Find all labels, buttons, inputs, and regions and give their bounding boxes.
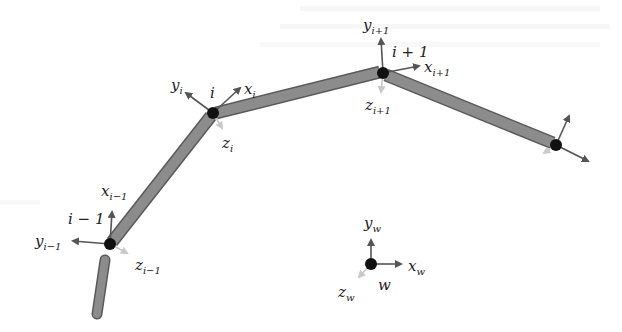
joint-i-dot [207,107,219,119]
label-x-i+1: xi+1 [424,58,450,78]
joint-i-1-dot [104,238,116,250]
label-w: w [378,276,391,294]
joint-i+1-dot [377,67,389,79]
label-joint-i+1: i + 1 [392,43,428,61]
label-z-i+1: zi+1 [364,96,391,116]
kinematic-chain-diagram: xi−1 i − 1 yi−1 zi−1 xi i yi zi xi+1 i +… [0,0,622,332]
frame-world: yw xw w zw [337,214,425,303]
link-lower-stub [97,260,105,314]
label-y-i+1: yi+1 [362,16,389,36]
link-i+1-to-end [386,75,553,143]
end-effector-dot [550,139,562,151]
link-i-to-i+1 [216,72,380,113]
label-z-w: zw [337,283,355,303]
label-y-i-1: yi−1 [34,232,61,252]
label-y-w: yw [363,214,381,234]
label-x-i-1: xi−1 [101,182,127,202]
label-joint-i: i [210,84,215,102]
label-joint-i-1: i − 1 [68,210,104,228]
label-z-i-1: zi−1 [134,256,161,276]
label-x-i: xi [244,80,256,100]
world-origin-dot [365,258,377,270]
label-y-i: yi [170,76,183,96]
link-i-1-to-i [112,116,211,242]
label-x-w: xw [408,257,425,277]
label-z-i: zi [221,134,233,154]
background-bleed-text [0,6,610,205]
